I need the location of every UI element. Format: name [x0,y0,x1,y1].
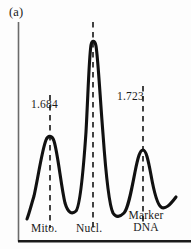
densitometer-figure: (a) 1.684 1.723 Mito. Nucl. Marker DNA [0,0,191,249]
axis-label-marker-line2: DNA [116,221,176,233]
axis-label-marker-line1: Marker [116,209,176,221]
peak-value-mito: 1.684 [31,98,58,110]
axis-label-nucl: Nucl. [76,222,102,234]
axis-label-marker-dna: Marker DNA [116,209,176,233]
panel-label: (a) [9,6,23,19]
axis-label-mito: Mito. [31,222,57,234]
peak-value-marker-dna: 1.723 [117,90,144,102]
